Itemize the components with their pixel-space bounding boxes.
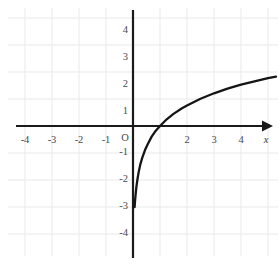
logarithmic-curve	[135, 77, 276, 208]
x-axis-label: x	[263, 134, 269, 145]
x-tick-label-3: 3	[211, 134, 216, 145]
x-tick-label-2: 2	[184, 134, 189, 145]
x-tick-label--2: -2	[75, 134, 84, 145]
y-tick-label-1: 1	[123, 105, 128, 116]
y-tick-label--1: -1	[119, 146, 128, 157]
y-axis-tick-labels: 4 3 2 1 -1 -2 -3 -4	[119, 24, 129, 238]
x-tick-label-4: 4	[238, 134, 244, 145]
x-tick-label--1: -1	[102, 134, 111, 145]
coordinate-plane-chart: -4 -3 -2 -1 2 3 4 4 3 2 1 -1 -2 -3 -4 O …	[0, 0, 280, 264]
y-tick-label--2: -2	[119, 173, 128, 184]
y-tick-label--4: -4	[119, 227, 128, 238]
origin-label: O	[121, 132, 129, 143]
y-tick-label-2: 2	[123, 78, 128, 89]
y-tick-label-4: 4	[123, 24, 129, 35]
x-tick-label--3: -3	[48, 134, 57, 145]
x-tick-label--4: -4	[21, 134, 30, 145]
y-tick-label--3: -3	[119, 200, 128, 211]
y-tick-label-3: 3	[123, 51, 128, 62]
graph-figure: -4 -3 -2 -1 2 3 4 4 3 2 1 -1 -2 -3 -4 O …	[0, 0, 280, 264]
